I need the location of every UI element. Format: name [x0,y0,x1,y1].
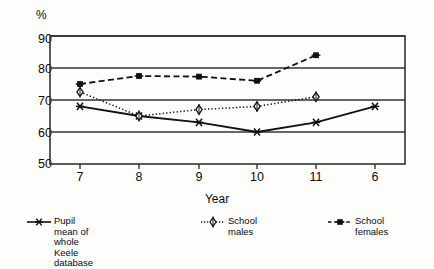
legend-label-school-females: School females [355,216,388,237]
y-tick-label-80: 80 [24,63,52,75]
x-axis-ticks [80,164,375,169]
x-tick-label-11: 11 [301,171,331,183]
x-axis-title: Year [0,192,434,206]
asterisk-icon [26,216,52,228]
y-tick-label-90: 90 [24,33,52,45]
y-tick-label-60: 60 [24,127,52,139]
axes-frame [50,36,405,164]
chart-legend: Pupil mean of whole Keele database Schoo… [0,214,434,253]
legend-label-pupil-mean: Pupil mean of whole Keele database [54,216,93,269]
square-filled-icon [327,216,353,228]
x-tick-label-6: 6 [360,171,390,183]
y-axis-unit-label: % [36,8,47,22]
y-tick-label-70: 70 [24,95,52,107]
x-tick-label-9: 9 [184,171,214,183]
x-tick-label-8: 8 [124,171,154,183]
x-tick-label-7: 7 [65,171,95,183]
legend-label-school-males: School males [228,216,257,237]
y-tick-label-50: 50 [24,158,52,170]
grid-lines [50,36,405,132]
data-series-group [76,52,380,135]
x-tick-label-10: 10 [242,171,272,183]
diamond-open-icon [200,216,226,228]
